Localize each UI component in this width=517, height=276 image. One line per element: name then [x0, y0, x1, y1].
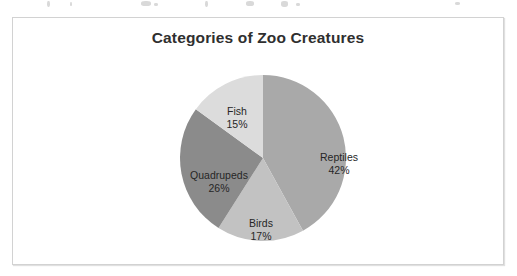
pie-label-quadrupeds-name: Quadrupeds — [190, 169, 248, 181]
chart-frame: Categories of Zoo Creatures Reptiles 42%… — [12, 17, 504, 265]
pie-label-birds: Birds 17% — [235, 217, 287, 243]
pie-label-fish: Fish 15% — [213, 105, 261, 131]
pie-label-fish-percent: 15% — [213, 118, 261, 131]
pie-label-reptiles-percent: 42% — [308, 164, 370, 177]
pie-label-quadrupeds: Quadrupeds 26% — [176, 169, 262, 195]
chart-title: Categories of Zoo Creatures — [13, 29, 503, 47]
pie-label-fish-name: Fish — [227, 105, 247, 117]
pie-label-quadrupeds-percent: 26% — [176, 182, 262, 195]
pie-label-birds-percent: 17% — [235, 230, 287, 243]
scan-artifacts — [0, 0, 517, 14]
pie-label-reptiles-name: Reptiles — [320, 151, 358, 163]
pie-label-birds-name: Birds — [249, 217, 273, 229]
pie-label-reptiles: Reptiles 42% — [308, 151, 370, 177]
